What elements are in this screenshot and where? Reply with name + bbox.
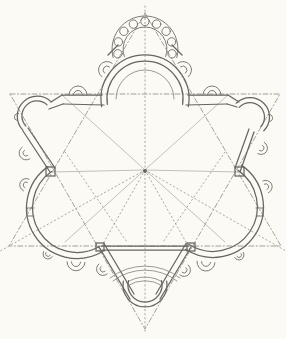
center-point bbox=[144, 170, 147, 173]
colonnade-column bbox=[129, 20, 137, 28]
north-wall-left-corner-inner bbox=[49, 104, 63, 109]
construction-diagonal-extra-left bbox=[65, 152, 127, 242]
colonnade-column bbox=[152, 20, 160, 28]
chapel-upper-right-inner bbox=[239, 103, 264, 127]
north-wall-left-inner bbox=[63, 104, 104, 105]
sanctuary-wall-left-outer bbox=[99, 247, 130, 299]
exedra-lower-right-niche-bottom bbox=[197, 261, 215, 271]
construction-diagonal-extra-right bbox=[163, 152, 225, 242]
wall-upper-left-niche bbox=[19, 147, 30, 160]
wall-upper-right-niche bbox=[258, 142, 268, 154]
colonnade-column bbox=[120, 27, 128, 35]
sanctuary-wall-right-outer bbox=[160, 247, 191, 299]
plan-sheet bbox=[0, 0, 286, 339]
north-wall-left-corner-outer bbox=[51, 95, 62, 102]
exedra-lower-left-niche-lower bbox=[43, 251, 52, 259]
sanctuary-wall-right-inner bbox=[156, 244, 186, 295]
sanctuary-niche-left bbox=[96, 264, 107, 275]
construction-radial-left bbox=[52, 170, 145, 172]
exedra-lower-right-inner bbox=[189, 170, 258, 251]
construction-radial-lower-left bbox=[0, 170, 145, 251]
exedra-lower-left-outer bbox=[26, 167, 102, 259]
apse-flank-niche-left bbox=[98, 61, 112, 76]
hexagonal-church-plan-drawing bbox=[0, 0, 286, 339]
sanctuary-niche-right bbox=[180, 265, 191, 276]
sanctuary-wall-left-inner bbox=[104, 244, 134, 295]
exedra-lower-right-niche-lower bbox=[235, 253, 244, 260]
apse-flank-niche-right bbox=[178, 61, 192, 76]
construction-diagonal-left bbox=[62, 95, 225, 242]
construction-diagonal-right bbox=[65, 95, 228, 242]
exedra-lower-right-niche-upper bbox=[263, 180, 272, 192]
wall-upper-left-outer bbox=[23, 131, 50, 172]
wall-upper-right-inner bbox=[235, 129, 249, 168]
colonnade-column bbox=[162, 27, 170, 35]
construction-radial-sanctuary-right bbox=[145, 170, 190, 249]
north-wall-right-inner bbox=[186, 104, 227, 105]
wall-upper-left-inner bbox=[28, 128, 55, 168]
construction-radial-lower-right bbox=[145, 170, 286, 251]
exedra-lower-left-niche-upper bbox=[20, 179, 29, 191]
exedra-lower-left-niche-bottom bbox=[67, 262, 85, 271]
north-wall-right-corner-inner bbox=[227, 104, 237, 107]
north-wall-right-corner-outer bbox=[228, 95, 239, 102]
construction-radial-right bbox=[145, 170, 238, 172]
exedra-lower-left-inner bbox=[33, 172, 100, 253]
exedra-lower-right-outer bbox=[186, 165, 264, 257]
chapel-upper-left-inner bbox=[22, 101, 47, 126]
construction-radial-sanctuary-left bbox=[100, 170, 145, 249]
